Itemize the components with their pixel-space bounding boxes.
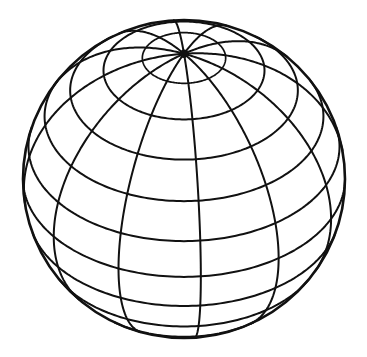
globe-wireframe-svg — [0, 0, 367, 357]
north-pole-marker-group — [180, 50, 188, 58]
north-pole-dot — [180, 50, 188, 58]
globe-figure — [0, 0, 367, 357]
